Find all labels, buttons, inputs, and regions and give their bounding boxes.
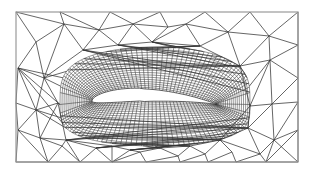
airfoil-mesh-figure: [0, 0, 314, 183]
mesh-canvas: [0, 0, 314, 183]
